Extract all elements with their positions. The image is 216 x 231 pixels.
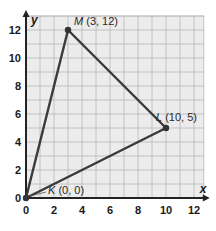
y-axis-label: y — [30, 13, 39, 27]
y-tick-label: 12 — [9, 24, 21, 36]
grid-background — [26, 16, 204, 198]
x-tick-label: 10 — [160, 204, 172, 216]
x-axis-label: x — [199, 182, 208, 196]
vertex-m-dot — [65, 27, 71, 33]
y-tick-label: 10 — [9, 52, 21, 64]
vertex-l-dot — [163, 125, 169, 131]
x-tick-label: 4 — [79, 204, 86, 216]
vertex-m-label: M (3, 12) — [74, 15, 118, 27]
vertex-k-dot — [23, 195, 29, 201]
y-tick-label: 2 — [15, 164, 21, 176]
x-tick-label: 6 — [107, 204, 113, 216]
y-tick-label: 6 — [15, 108, 21, 120]
vertex-l-label: L (10, 5) — [156, 111, 197, 123]
x-tick-label: 12 — [188, 204, 200, 216]
y-tick-label: 4 — [15, 136, 22, 148]
x-tick-label: 2 — [51, 204, 57, 216]
x-tick-label: 0 — [23, 204, 29, 216]
x-tick-label: 8 — [135, 204, 141, 216]
y-axis-arrow-icon — [23, 10, 30, 17]
y-tick-label: 8 — [15, 80, 21, 92]
vertex-k-label: K (0, 0) — [48, 184, 84, 196]
coordinate-plane-chart: 024681012024681012 K (0, 0)L (10, 5)M (3… — [0, 0, 216, 231]
y-tick-label: 0 — [15, 192, 21, 204]
